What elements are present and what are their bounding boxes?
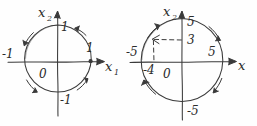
left-horizontal-axis-label: x xyxy=(105,59,113,74)
right-tick-label-bottom: -5 xyxy=(187,104,199,118)
right-horizontal-axis-arrowhead xyxy=(228,58,236,65)
right-point-x-label: -4 xyxy=(143,63,155,77)
right-vertical-axis-label: x xyxy=(163,4,171,19)
left-tick-label-right: 1 xyxy=(86,41,94,55)
right-radius5-circle-overdraw xyxy=(142,19,180,60)
left-vertical-axis-label-subscript: 2 xyxy=(46,14,52,23)
right-dashed-vertical-guide xyxy=(153,40,154,62)
left-horizontal-axis-arrowhead xyxy=(96,58,104,64)
right-vertical-axis xyxy=(182,12,183,120)
left-phase-diagram: x 2 x 1 1 -1 -1 1 0 xyxy=(0,0,125,126)
left-horizontal-axis-label-subscript: 1 xyxy=(114,68,119,77)
left-vertical-axis xyxy=(58,12,59,116)
right-horizontal-axis-label: x xyxy=(238,58,246,73)
right-point-y-label: 3 xyxy=(187,33,195,47)
figure-canvas: x 2 x 1 1 -1 -1 1 0 xyxy=(0,0,257,126)
left-origin-label: 0 xyxy=(39,67,47,81)
right-vertical-axis-arrowhead xyxy=(179,11,185,18)
right-tick-label-right: 5 xyxy=(208,45,216,59)
left-diagram-svg: x 2 x 1 1 -1 -1 1 0 xyxy=(0,0,125,126)
left-vertical-axis-label: x xyxy=(38,5,46,20)
left-arc-arrow-upper-right-head xyxy=(75,26,80,32)
left-tick-label-bottom: -1 xyxy=(60,93,72,107)
right-arc-arrow-lower-left-head xyxy=(142,80,149,85)
left-tick-label-left: -1 xyxy=(2,47,14,61)
right-tick-label-left: -5 xyxy=(126,45,138,59)
right-dashed-horizontal-guide xyxy=(154,39,181,40)
right-vertical-axis-label-subscript: 2 xyxy=(171,13,177,22)
left-vertical-axis-arrowhead xyxy=(54,11,60,18)
right-phase-diagram: x 2 x 5 -5 -5 5 3 -4 0 xyxy=(125,0,257,126)
left-point-marker xyxy=(89,59,93,63)
right-tick-label-top: 5 xyxy=(187,15,195,29)
right-diagram-svg: x 2 x 5 -5 -5 5 3 -4 0 xyxy=(125,0,257,126)
right-origin-label: 0 xyxy=(163,67,171,81)
left-tick-label-top: 1 xyxy=(61,20,69,34)
